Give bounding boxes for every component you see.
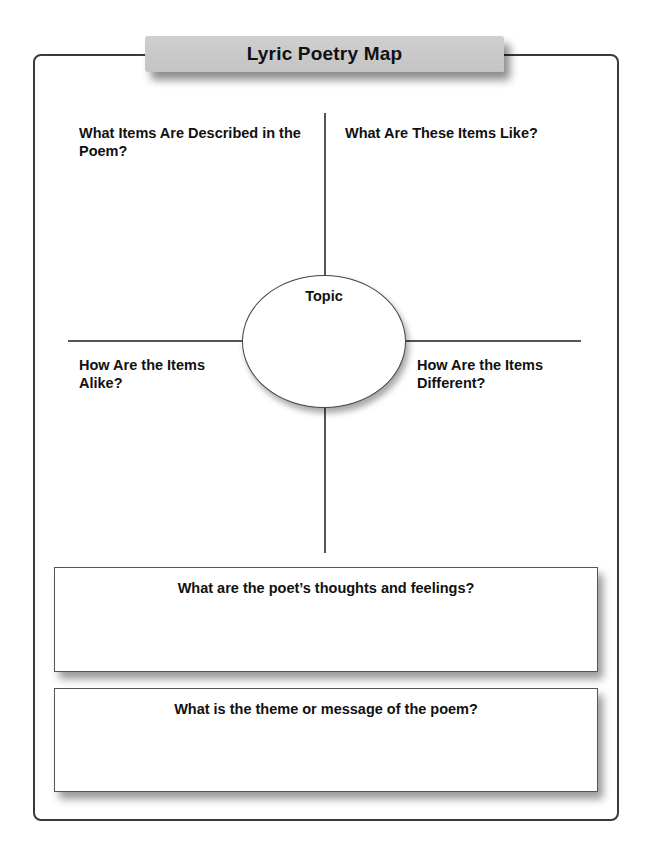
divider-horizontal-left bbox=[68, 340, 243, 342]
topic-label: Topic bbox=[243, 288, 405, 304]
divider-vertical-bottom bbox=[324, 408, 326, 553]
quadrant-label-items-described: What Items Are Described in the Poem? bbox=[79, 124, 319, 160]
topic-ellipse[interactable]: Topic bbox=[242, 275, 406, 408]
quadrant-label-items-alike: How Are the Items Alike? bbox=[79, 356, 239, 392]
quadrant-label-items-like: What Are These Items Like? bbox=[345, 124, 605, 142]
thoughts-feelings-question: What are the poet’s thoughts and feeling… bbox=[55, 580, 597, 596]
thoughts-feelings-box[interactable]: What are the poet’s thoughts and feeling… bbox=[54, 567, 598, 672]
title-banner: Lyric Poetry Map bbox=[145, 36, 504, 72]
divider-vertical-top bbox=[324, 113, 326, 275]
divider-horizontal-right bbox=[405, 340, 581, 342]
page-title: Lyric Poetry Map bbox=[247, 43, 403, 65]
theme-message-box[interactable]: What is the theme or message of the poem… bbox=[54, 688, 598, 792]
theme-message-question: What is the theme or message of the poem… bbox=[55, 701, 597, 717]
quadrant-label-items-different: How Are the Items Different? bbox=[417, 356, 587, 392]
